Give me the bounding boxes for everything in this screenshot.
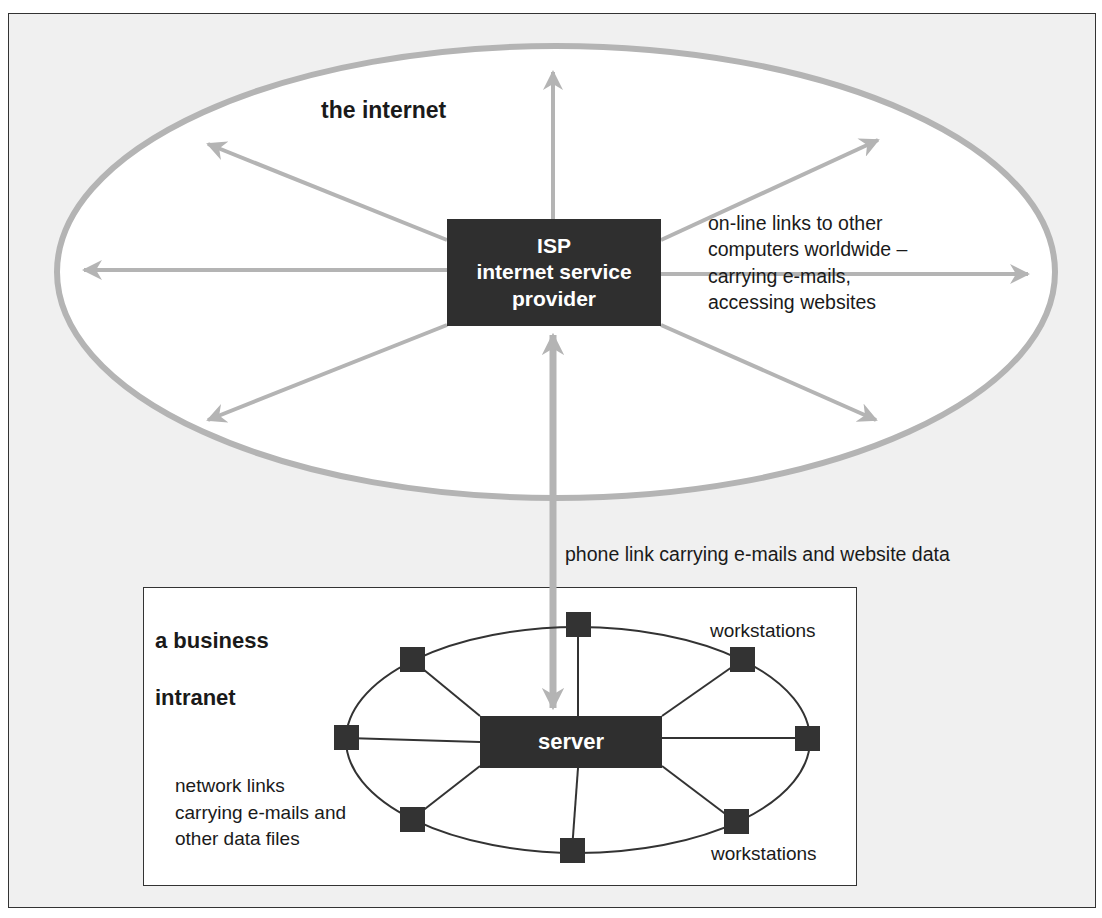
- workstation-node: [400, 807, 425, 832]
- workstation-node: [400, 647, 425, 672]
- online-links-caption: on-line links to other computers worldwi…: [708, 210, 907, 315]
- workstation-node: [560, 838, 585, 863]
- isp-line1: ISP: [447, 233, 661, 259]
- intranet-title: a business intranet: [155, 598, 269, 712]
- server-box: server: [480, 716, 662, 768]
- network-links-caption: network links carrying e-mails and other…: [175, 773, 346, 853]
- phone-link-caption: phone link carrying e-mails and website …: [565, 542, 950, 567]
- internet-title: the internet: [321, 96, 446, 126]
- workstations-top-label: workstations: [710, 619, 816, 644]
- workstation-node: [724, 809, 749, 834]
- intranet-title-line1: a business: [155, 628, 269, 653]
- isp-line3: provider: [447, 286, 661, 312]
- intranet-title-line2: intranet: [155, 685, 236, 710]
- workstation-node: [730, 647, 755, 672]
- workstation-node: [334, 725, 359, 750]
- network-diagram: [0, 0, 1102, 918]
- workstations-bottom-label: workstations: [711, 842, 817, 867]
- isp-line2: internet service: [447, 259, 661, 285]
- workstation-node: [795, 726, 820, 751]
- workstation-node: [566, 612, 591, 637]
- isp-box: ISP internet service provider: [447, 219, 661, 326]
- server-label: server: [538, 729, 604, 755]
